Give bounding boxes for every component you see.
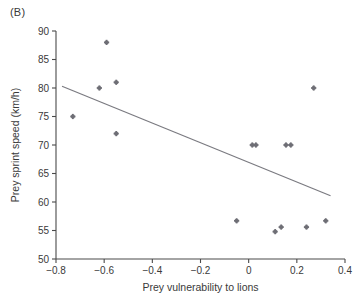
x-tick-label: 0.4 (338, 265, 352, 276)
data-point (279, 224, 284, 229)
y-tick-label: 60 (38, 197, 50, 208)
data-point (283, 142, 288, 147)
x-tick-label: 0 (246, 265, 252, 276)
data-point (311, 85, 316, 90)
data-point (288, 142, 293, 147)
y-tick-label: 55 (38, 225, 50, 236)
y-tick-label: 85 (38, 54, 50, 65)
data-points (70, 40, 328, 234)
data-point (114, 80, 119, 85)
figure-panel-b: (B) 505560657075808590 −0.8−0.6−0.4−0.20… (0, 0, 363, 302)
data-point (234, 218, 239, 223)
data-point (323, 218, 328, 223)
y-tick-label: 75 (38, 111, 50, 122)
y-tick-label: 65 (38, 168, 50, 179)
data-point (114, 131, 119, 136)
x-tick-label: 0.2 (290, 265, 304, 276)
x-tick-label: −0.6 (94, 265, 114, 276)
y-tick-label: 90 (38, 26, 50, 37)
data-point (97, 85, 102, 90)
data-point (70, 114, 75, 119)
x-tick-label: −0.8 (46, 265, 66, 276)
scatter-plot: 505560657075808590 −0.8−0.6−0.4−0.200.20… (0, 0, 363, 302)
data-point (273, 229, 278, 234)
y-axis-label: Prey sprint speed (km/h) (9, 88, 21, 202)
data-point (253, 142, 258, 147)
x-tick-label: −0.2 (191, 265, 211, 276)
data-point (304, 224, 309, 229)
y-tick-label: 50 (38, 254, 50, 265)
x-axis-ticks: −0.8−0.6−0.4−0.200.20.4 (46, 259, 352, 276)
regression-trendline (62, 86, 331, 195)
x-tick-label: −0.4 (142, 265, 162, 276)
y-axis-ticks: 505560657075808590 (38, 26, 56, 265)
x-axis-label: Prey vulnerability to lions (142, 281, 258, 293)
y-tick-label: 80 (38, 83, 50, 94)
y-tick-label: 70 (38, 140, 50, 151)
data-point (104, 40, 109, 45)
